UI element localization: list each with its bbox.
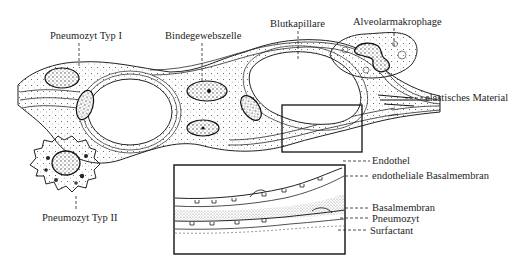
- label-pneumozyt-typ1: Pneumozyt Typ I: [50, 30, 122, 42]
- label-pneumozyt-typ2: Pneumozyt Typ II: [42, 212, 117, 224]
- label-alveolarmakrophage: Alveolarmakrophage: [353, 16, 442, 28]
- label-blutkapillare: Blutkapillare: [270, 18, 325, 30]
- label-surfactant: Surfactant: [370, 225, 413, 237]
- label-endothel: Endothel: [372, 155, 410, 167]
- label-elastisches-material: elastisches Material: [425, 92, 508, 104]
- label-pneumozyt: Pneumozyt: [372, 213, 419, 225]
- label-endotheliale-basalmembran: endotheliale Basalmembran: [372, 170, 489, 182]
- inset-enlargement: [174, 165, 345, 254]
- label-bindegewebszelle: Bindegewebszelle: [165, 30, 241, 42]
- alveolar-septum-diagram: Pneumozyt Typ I Bindegewebszelle Blutkap…: [0, 0, 519, 268]
- pneumozyt-typ1-nucleus: [45, 68, 79, 88]
